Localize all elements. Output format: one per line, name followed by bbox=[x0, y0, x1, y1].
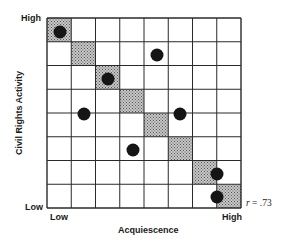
x-axis-title: Acquiescence bbox=[118, 225, 179, 235]
data-point bbox=[127, 144, 140, 157]
x-axis-low-label: Low bbox=[50, 212, 68, 222]
data-point bbox=[211, 191, 224, 204]
r-value: = .73 bbox=[250, 198, 272, 208]
shaded-cell bbox=[144, 113, 168, 137]
x-axis-high-label: High bbox=[222, 212, 242, 222]
data-point bbox=[102, 73, 115, 86]
y-axis-high-label: High bbox=[21, 13, 41, 23]
y-axis-low-label: Low bbox=[25, 202, 43, 212]
scatter-chart: High Low Low High Acquiescence Civil Rig… bbox=[0, 0, 293, 243]
data-point bbox=[211, 168, 224, 181]
shaded-cell bbox=[168, 137, 192, 161]
data-point bbox=[174, 108, 187, 121]
y-axis-title: Civil Rights Activity bbox=[14, 71, 24, 155]
shaded-cell bbox=[120, 89, 144, 113]
data-point bbox=[54, 26, 67, 39]
correlation-annotation: r = .73 bbox=[246, 198, 272, 208]
shaded-cell bbox=[71, 42, 95, 66]
data-point bbox=[151, 49, 164, 62]
data-point bbox=[78, 108, 91, 121]
